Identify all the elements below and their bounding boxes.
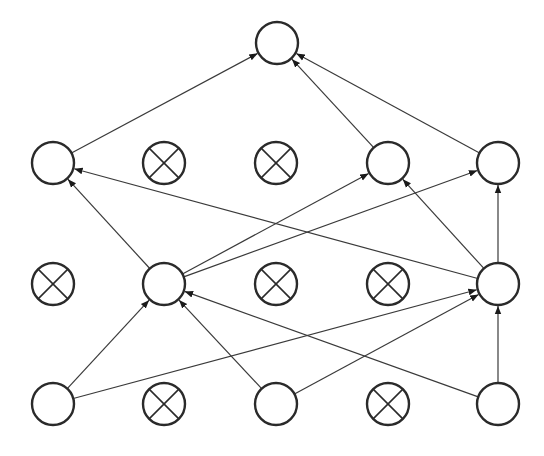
neuron-i4 [477,383,519,425]
neuron-circle [477,263,519,305]
neuron-h1_1 [143,263,185,305]
connection-arrow-i4-to-h1_1 [185,291,479,396]
connection-arrow-h1_4-to-h2_3 [403,179,484,268]
connection-arrow-i2-to-h1_4 [294,294,478,394]
dropped-neuron-h1_0 [32,263,74,305]
neuron-h1_4 [477,263,519,305]
neuron-o0 [256,22,298,64]
dropped-neuron-h2_1 [143,142,185,184]
connection-arrow-h1_1-to-h2_4 [184,170,478,276]
neuron-circle [143,263,185,305]
neuron-h2_0 [32,142,74,184]
dropped-neuron-h2_2 [255,142,297,184]
neuron-circle [255,383,297,425]
connection-arrow-i2-to-h1_1 [179,300,262,389]
neuron-circle [32,383,74,425]
neuron-circle [367,142,409,184]
neural-network-dropout-diagram [0,0,544,456]
neuron-circle [256,22,298,64]
connection-arrow-i0-to-h1_1 [67,300,149,388]
neuron-h2_3 [367,142,409,184]
dropped-neuron-i1 [143,383,185,425]
neuron-h2_4 [477,142,519,184]
dropped-neuron-i3 [367,383,409,425]
neuron-i0 [32,383,74,425]
neuron-i2 [255,383,297,425]
connections [67,53,498,398]
neuron-circle [477,142,519,184]
dropped-neuron-h1_2 [255,263,297,305]
connection-arrow-h1_1-to-h2_0 [68,179,150,268]
dropped-neuron-h1_3 [367,263,409,305]
neuron-circle [477,383,519,425]
connection-arrow-h2_0-to-o0 [72,53,258,153]
connection-arrow-h2_4-to-o0 [296,53,479,152]
connection-arrow-h2_3-to-o0 [292,59,374,147]
neuron-circle [32,142,74,184]
